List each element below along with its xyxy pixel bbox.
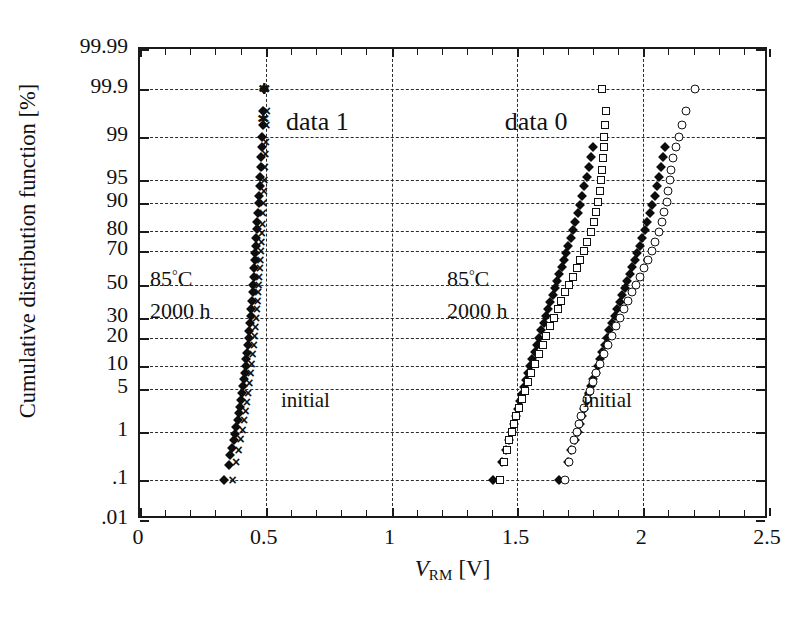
x-axis-tick xyxy=(442,49,443,55)
x-axis-tick xyxy=(392,508,394,516)
x-axis-tick xyxy=(215,510,216,516)
data-point-open-square xyxy=(515,404,523,412)
data-point-cross xyxy=(261,137,271,147)
data-point-filled-diamond xyxy=(660,142,670,152)
data-point-open-circle xyxy=(632,280,641,289)
data-point-filled-diamond xyxy=(652,181,662,191)
x-axis-tick xyxy=(341,510,342,516)
data-point-open-square xyxy=(535,350,543,358)
y-axis-tick xyxy=(140,389,149,391)
y-axis-tick xyxy=(756,180,765,182)
x-axis-tick xyxy=(366,510,367,516)
y-axis-tick xyxy=(756,338,765,340)
data-point-open-circle xyxy=(691,84,700,93)
data-point-open-square xyxy=(600,143,608,151)
data-point-open-square xyxy=(598,85,606,93)
gridline-horizontal xyxy=(140,389,765,390)
x-tick-label: 2 xyxy=(601,526,681,548)
x-axis-unit: [V] xyxy=(458,556,490,581)
x-axis-tick xyxy=(392,49,394,57)
x-axis-tick xyxy=(241,510,242,516)
data-point-cross xyxy=(259,175,269,185)
x-axis-tick xyxy=(543,49,544,55)
data-1-condition-temp: 85°C xyxy=(150,263,192,291)
x-axis-tick xyxy=(165,49,166,55)
y-axis-tick xyxy=(756,480,765,482)
data-point-open-circle xyxy=(628,288,637,297)
data-1-initial-label: initial xyxy=(281,388,330,413)
data-point-filled-diamond xyxy=(588,142,598,152)
data-point-open-square xyxy=(527,369,535,377)
data-point-filled-diamond xyxy=(577,191,587,201)
x-axis-tick xyxy=(492,510,493,516)
data-point-open-square xyxy=(597,176,605,184)
data-point-open-square xyxy=(561,288,569,296)
x-axis-title: VRM [V] xyxy=(138,556,767,584)
x-tick-label: 0.5 xyxy=(224,526,304,548)
data-point-open-square xyxy=(565,281,573,289)
data-point-open-square xyxy=(518,395,526,403)
data-point-open-square xyxy=(590,218,598,226)
x-axis-tick xyxy=(190,49,191,55)
data-point-open-circle xyxy=(651,237,660,246)
data-point-star xyxy=(257,113,269,125)
y-axis-tick xyxy=(756,89,765,91)
y-axis-tick xyxy=(140,251,149,253)
x-axis-subscript: RM xyxy=(429,567,453,583)
data-point-open-circle xyxy=(636,272,645,281)
data-point-open-circle xyxy=(570,436,579,445)
y-axis-tick xyxy=(756,366,765,368)
data-point-cross xyxy=(260,149,270,159)
data-point-filled-diamond xyxy=(586,152,596,162)
y-axis-tick xyxy=(140,520,149,522)
data-point-open-square xyxy=(539,341,547,349)
data-point-open-circle xyxy=(565,458,574,467)
gridline-horizontal xyxy=(140,231,765,232)
data-point-open-circle xyxy=(671,143,680,152)
y-axis-tick xyxy=(756,49,765,51)
x-axis-tick xyxy=(668,49,669,55)
x-axis-tick xyxy=(719,510,720,516)
data-point-open-circle xyxy=(574,419,583,428)
x-axis-tick xyxy=(241,49,242,55)
data-point-open-square xyxy=(524,378,532,386)
y-tick-label: .1 xyxy=(0,467,138,489)
data-point-open-square xyxy=(600,133,608,141)
x-axis-tick xyxy=(316,510,317,516)
data-point-open-square xyxy=(510,420,518,428)
y-axis-tick xyxy=(140,180,149,182)
data-point-open-square xyxy=(531,360,539,368)
x-axis-tick xyxy=(517,508,519,516)
data-point-open-square xyxy=(546,322,554,330)
data-0-condition-time: 2000 h xyxy=(447,298,508,323)
data-point-open-square xyxy=(583,238,591,246)
y-tick-label: 95 xyxy=(0,167,138,189)
x-axis-tick xyxy=(694,510,695,516)
gridline-vertical xyxy=(643,49,644,516)
data-point-open-circle xyxy=(678,121,687,130)
y-tick-label: 50 xyxy=(0,272,138,294)
data-point-filled-diamond xyxy=(658,152,668,162)
data-point-open-square xyxy=(592,208,600,216)
plot-area: data 1data 085°C2000 h85°C2000 hinitiali… xyxy=(138,47,767,518)
y-axis-tick xyxy=(756,285,765,287)
y-axis-tick xyxy=(140,231,149,233)
data-point-filled-diamond xyxy=(656,162,666,172)
x-axis-tick xyxy=(291,49,292,55)
y-tick-label: 70 xyxy=(0,238,138,260)
data-point-open-circle xyxy=(620,304,629,313)
x-axis-tick xyxy=(543,510,544,516)
data-point-open-square xyxy=(599,154,607,162)
data-point-open-square xyxy=(521,387,529,395)
data-point-open-circle xyxy=(561,476,570,485)
x-axis-tick xyxy=(593,49,594,55)
data-point-open-circle xyxy=(681,106,690,115)
y-axis-tick xyxy=(140,203,149,205)
data-point-open-circle xyxy=(660,207,669,216)
probability-plot-figure: Cumulative distribution function [%] dat… xyxy=(0,0,807,626)
data-point-open-circle xyxy=(647,247,656,256)
x-axis-tick xyxy=(417,510,418,516)
data-0-initial-label: initial xyxy=(583,388,632,413)
y-axis-tick xyxy=(140,318,149,320)
y-tick-label: 20 xyxy=(0,325,138,347)
